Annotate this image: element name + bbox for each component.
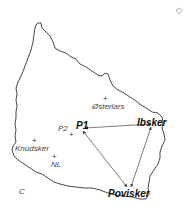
label-knudsker: Knudsker [15,145,49,153]
corner-label: C [19,188,25,196]
label-nl: NL [51,161,61,169]
route-ibsker-povisker [131,127,151,187]
label-povisker: Povisker [108,189,150,199]
island-outline [12,23,165,199]
compass-glyph-icon [176,8,182,14]
route-p1-povisker [83,131,127,187]
label-ibsker: Ibsker [137,118,166,128]
label-p1: P1 [76,121,88,131]
label-p2: P2 [58,125,68,133]
marker-p2-icon: + [69,131,74,139]
label-osterlars: Østerlars [92,103,124,111]
